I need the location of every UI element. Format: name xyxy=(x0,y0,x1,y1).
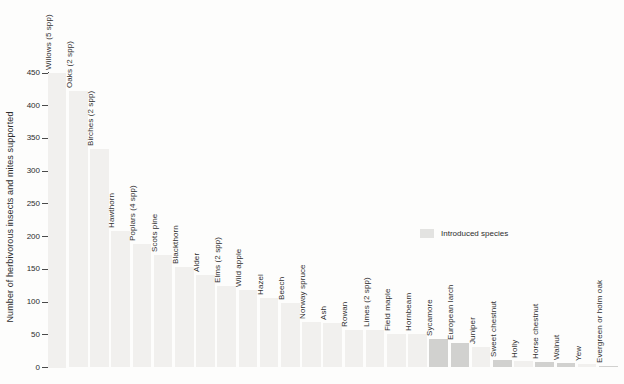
y-tick-label-50: 50 xyxy=(16,330,40,340)
bar-juniper xyxy=(472,347,491,368)
bar-alder xyxy=(196,275,215,367)
bar-label-willows-5-spp: Willows (5 spp) xyxy=(44,14,53,70)
bar-label-birches-2-spp: Birches (2 spp) xyxy=(86,91,95,146)
bar-sycamore xyxy=(429,339,448,367)
y-tick-label-450: 450 xyxy=(16,68,40,78)
bar-label-alder: Alder xyxy=(192,253,201,272)
bar-yew xyxy=(578,364,597,368)
bar-european-larch xyxy=(451,343,470,368)
bar-label-sycamore: Sycamore xyxy=(425,300,434,337)
bar-label-rowan: Rowan xyxy=(340,301,349,326)
bar-label-norway-spruce: Norway spruce xyxy=(298,264,307,319)
bar-label-sweet-chestnut: Sweet chestnut xyxy=(489,301,498,357)
bar-hornbeam xyxy=(408,334,427,367)
bar-label-blackthorn: Blackthorn xyxy=(171,226,180,265)
bar-elms-2-spp xyxy=(217,286,236,367)
bar-beech xyxy=(281,303,300,367)
bar-walnut xyxy=(557,363,576,368)
bar-label-elms-2-spp: Elms (2 spp) xyxy=(213,237,222,283)
bar-blackthorn xyxy=(175,267,194,367)
bar-wild-apple xyxy=(239,290,258,367)
bar-birches-2-spp xyxy=(90,149,109,368)
bar-label-horse-chestnut: Horse chestnut xyxy=(531,303,540,358)
bar-oaks-2-spp xyxy=(69,91,88,368)
bar-label-oaks-2-spp: Oaks (2 spp) xyxy=(65,41,74,88)
bar-horse-chestnut xyxy=(535,362,554,368)
bar-label-limes-2-spp: Limes (2 spp) xyxy=(362,277,371,327)
bar-label-walnut: Walnut xyxy=(552,335,561,360)
bar-norway-spruce xyxy=(302,322,321,368)
bar-limes-2-spp xyxy=(366,330,385,367)
introduced-species-swatch xyxy=(420,229,434,238)
y-tick-label-100: 100 xyxy=(16,297,40,307)
bar-label-yew: Yew xyxy=(574,345,583,360)
y-tick-label-250: 250 xyxy=(16,199,40,209)
bar-label-juniper: Juniper xyxy=(468,317,477,344)
bar-field-maple xyxy=(387,334,406,367)
bar-label-european-larch: European larch xyxy=(446,284,455,340)
y-tick-label-400: 400 xyxy=(16,101,40,111)
bar-label-field-maple: Field maple xyxy=(383,289,392,331)
chart: Number of herbivorous insects and mites … xyxy=(0,0,624,384)
y-tick-label-300: 300 xyxy=(16,166,40,176)
y-tick-label-150: 150 xyxy=(16,264,40,274)
bar-holly xyxy=(514,361,533,368)
bar-label-holly: Holly xyxy=(510,340,519,358)
bar-sweet-chestnut xyxy=(493,360,512,367)
bar-label-hornbeam: Hornbeam xyxy=(404,293,413,331)
introduced-species-label: Introduced species xyxy=(441,229,508,238)
bar-hazel xyxy=(260,298,279,367)
introduced-species-legend: Introduced species xyxy=(420,229,508,238)
bar-label-beech: Beech xyxy=(277,277,286,300)
bar-rowan xyxy=(345,330,364,368)
bar-label-poplars-4-spp: Poplars (4 spp) xyxy=(128,185,137,241)
bar-scots-pine xyxy=(154,255,173,368)
bar-label-ash: Ash xyxy=(319,306,328,320)
bar-poplars-4-spp xyxy=(133,244,152,368)
bar-willows-5-spp xyxy=(48,73,67,368)
bar-label-hazel: Hazel xyxy=(256,274,265,295)
bar-ash xyxy=(323,323,342,368)
y-tick-label-0: 0 xyxy=(16,363,40,373)
bar-label-wild-apple: Wild apple xyxy=(234,249,243,287)
y-tick-label-200: 200 xyxy=(16,232,40,242)
bar-label-hawthorn: Hawthorn xyxy=(107,193,116,228)
bar-evergreen-or-holm-oak xyxy=(599,366,618,367)
y-tick-label-350: 350 xyxy=(16,133,40,143)
bar-label-scots-pine: Scots pine xyxy=(150,214,159,252)
bar-hawthorn xyxy=(111,231,130,368)
bar-label-evergreen-or-holm-oak: Evergreen or holm oak xyxy=(595,280,604,363)
